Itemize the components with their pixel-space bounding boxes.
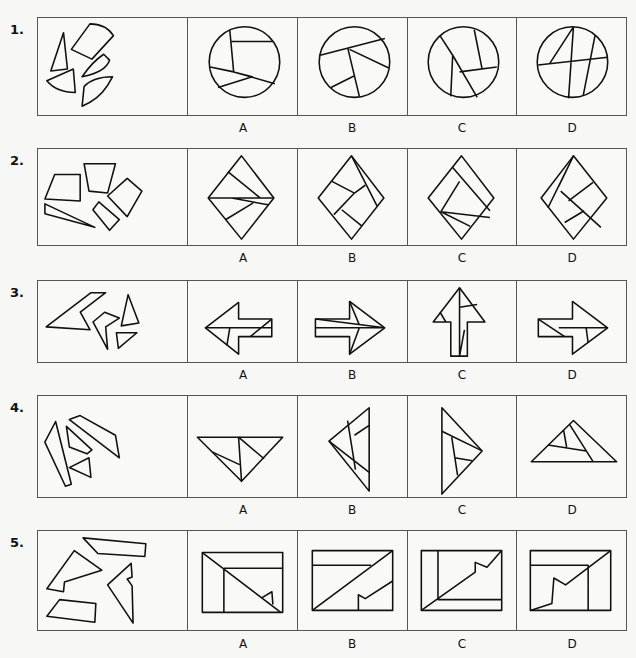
option-label-3c: C bbox=[452, 368, 472, 382]
option-2c[interactable] bbox=[408, 149, 517, 245]
option-label-3b: B bbox=[342, 368, 362, 382]
option-3d[interactable] bbox=[517, 281, 626, 362]
option-figure bbox=[408, 531, 516, 630]
option-figure bbox=[408, 18, 516, 115]
option-figure bbox=[408, 281, 516, 362]
option-label-1b: B bbox=[342, 121, 362, 135]
option-figure bbox=[408, 396, 516, 497]
question-row-1 bbox=[37, 17, 627, 116]
option-label-4d: D bbox=[562, 503, 582, 517]
option-label-5d: D bbox=[562, 637, 582, 651]
option-label-4c: C bbox=[452, 503, 472, 517]
option-5b[interactable] bbox=[298, 531, 408, 630]
option-5a[interactable] bbox=[188, 531, 298, 630]
option-4a[interactable] bbox=[188, 396, 298, 497]
option-label-5c: C bbox=[452, 637, 472, 651]
question-row-2 bbox=[37, 148, 627, 246]
option-figure bbox=[188, 18, 297, 115]
option-figure bbox=[188, 149, 297, 245]
option-figure bbox=[517, 18, 626, 115]
option-1b[interactable] bbox=[298, 18, 408, 115]
pieces-cell-1 bbox=[38, 18, 188, 115]
option-figure bbox=[298, 149, 407, 245]
option-3b[interactable] bbox=[298, 281, 408, 362]
option-3c[interactable] bbox=[408, 281, 517, 362]
pieces-figure bbox=[38, 149, 187, 245]
option-4c[interactable] bbox=[408, 396, 517, 497]
question-number-2: 2. bbox=[10, 153, 24, 168]
option-figure bbox=[188, 531, 297, 630]
option-figure bbox=[188, 396, 297, 497]
option-2a[interactable] bbox=[188, 149, 298, 245]
question-number-1: 1. bbox=[10, 22, 24, 37]
pieces-figure bbox=[38, 18, 187, 115]
question-row-3 bbox=[37, 280, 627, 363]
option-figure bbox=[298, 281, 407, 362]
pieces-cell-2 bbox=[38, 149, 188, 245]
option-figure bbox=[517, 281, 626, 362]
option-label-5b: B bbox=[342, 637, 362, 651]
option-figure bbox=[298, 396, 407, 497]
pieces-figure bbox=[38, 281, 187, 362]
option-4b[interactable] bbox=[298, 396, 408, 497]
option-1c[interactable] bbox=[408, 18, 517, 115]
option-figure bbox=[188, 281, 297, 362]
option-figure bbox=[517, 149, 626, 245]
pieces-figure bbox=[38, 531, 187, 630]
option-figure bbox=[298, 18, 407, 115]
pieces-figure bbox=[38, 396, 187, 497]
option-label-2a: A bbox=[233, 251, 253, 265]
option-label-4b: B bbox=[342, 503, 362, 517]
option-5d[interactable] bbox=[517, 531, 626, 630]
question-row-5 bbox=[37, 530, 627, 631]
option-label-4a: A bbox=[233, 503, 253, 517]
pieces-cell-3 bbox=[38, 281, 188, 362]
option-4d[interactable] bbox=[517, 396, 626, 497]
option-label-2c: C bbox=[452, 251, 472, 265]
question-row-4 bbox=[37, 395, 627, 498]
question-number-5: 5. bbox=[10, 535, 24, 550]
option-label-5a: A bbox=[233, 637, 253, 651]
option-2d[interactable] bbox=[517, 149, 626, 245]
option-label-1d: D bbox=[562, 121, 582, 135]
option-label-2b: B bbox=[342, 251, 362, 265]
option-label-1a: A bbox=[233, 121, 253, 135]
option-figure bbox=[517, 531, 626, 630]
option-5c[interactable] bbox=[408, 531, 517, 630]
option-label-2d: D bbox=[562, 251, 582, 265]
option-2b[interactable] bbox=[298, 149, 408, 245]
question-number-4: 4. bbox=[10, 400, 24, 415]
option-figure bbox=[517, 396, 626, 497]
option-label-3a: A bbox=[233, 368, 253, 382]
pieces-cell-5 bbox=[38, 531, 188, 630]
pieces-cell-4 bbox=[38, 396, 188, 497]
option-label-3d: D bbox=[562, 368, 582, 382]
option-1d[interactable] bbox=[517, 18, 626, 115]
option-figure bbox=[298, 531, 407, 630]
option-figure bbox=[408, 149, 516, 245]
option-3a[interactable] bbox=[188, 281, 298, 362]
option-label-1c: C bbox=[452, 121, 472, 135]
option-1a[interactable] bbox=[188, 18, 298, 115]
question-number-3: 3. bbox=[10, 285, 24, 300]
